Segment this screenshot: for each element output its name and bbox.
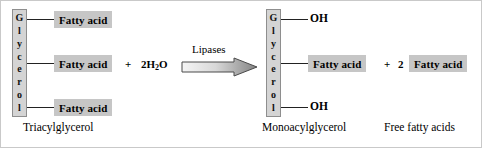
water-formula-prefix: 2H [141,58,155,70]
glycerol-letter: c [17,52,21,62]
glycerol-letter: r [271,77,275,87]
fatty-acid-box: Fatty acid [308,55,366,72]
reaction-arrow-icon [181,57,259,77]
water-formula: 2H2O [141,58,168,72]
plus-sign-water: + [125,58,131,70]
glycerol-letter: G [270,13,278,23]
plus-sign-products: + [384,58,390,70]
glycerol-letter: e [271,64,275,74]
hydroxyl-label-top: OH [310,12,328,24]
glycerol-letter: l [272,103,275,113]
bond-line [27,107,54,108]
hydroxyl-label-bottom: OH [310,100,328,112]
glycerol-letter: e [17,64,21,74]
glycerol-letter: o [271,90,276,100]
glycerol-letter: l [272,26,275,36]
glycerol-letter: G [16,13,24,23]
glycerol-letter: c [271,52,275,62]
bond-line [281,107,308,108]
bond-line [281,63,308,64]
glycerol-backbone-product: G l y c e r o l [266,9,281,117]
glycerol-letter: y [271,39,276,49]
water-formula-suffix: O [159,58,168,70]
glycerol-letter: o [17,90,22,100]
fatty-acid-box: Fatty acid [54,99,112,116]
bond-line [281,19,308,20]
bond-line [27,19,54,20]
reaction-diagram: G l y c e r o l Fatty acid Fatty acid Fa… [0,0,482,148]
glycerol-letter: l [18,26,21,36]
fatty-acid-box: Fatty acid [54,55,112,72]
fatty-acid-box: Fatty acid [409,55,467,72]
bond-line [27,63,54,64]
caption-triacylglycerol: Triacylglycerol [23,121,93,133]
caption-free-fatty-acids: Free fatty acids [384,121,455,133]
fatty-acid-box: Fatty acid [54,11,112,28]
glycerol-letter: y [17,39,22,49]
coefficient-two: 2 [398,58,404,70]
glycerol-backbone-reactant: G l y c e r o l [12,9,27,117]
glycerol-letter: l [18,103,21,113]
caption-monoacylglycerol: Monoacylglycerol [262,121,346,133]
arrow-label-lipases: Lipases [192,43,226,55]
glycerol-letter: r [17,77,21,87]
